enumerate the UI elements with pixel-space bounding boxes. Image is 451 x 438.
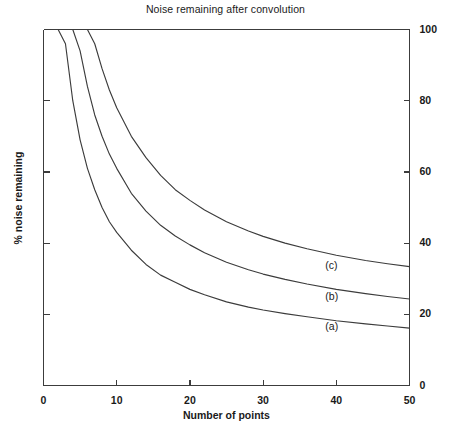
curve-c bbox=[51, 30, 410, 267]
y-tick-label: 100 bbox=[420, 23, 438, 35]
y-tick-label: 80 bbox=[420, 94, 432, 106]
x-tick-label: 30 bbox=[257, 394, 269, 406]
x-tick-label: 0 bbox=[41, 394, 47, 406]
y-tick-label: 0 bbox=[420, 379, 426, 391]
y-tick-label: 20 bbox=[420, 307, 432, 319]
y-tick-label: 60 bbox=[420, 165, 432, 177]
x-axis-label: Number of points bbox=[43, 409, 410, 421]
x-tick-label: 10 bbox=[111, 394, 123, 406]
plot-area bbox=[0, 0, 451, 438]
x-tick-label: 40 bbox=[330, 394, 342, 406]
x-tick-label: 20 bbox=[184, 394, 196, 406]
curve-label-a: (a) bbox=[325, 320, 338, 332]
curve-label-b: (b) bbox=[325, 290, 338, 302]
curve-label-c: (c) bbox=[325, 259, 337, 271]
x-tick-label: 50 bbox=[404, 394, 416, 406]
curve-a bbox=[51, 30, 410, 329]
y-axis-label: % noise remaining bbox=[12, 118, 24, 278]
y-tick-label: 40 bbox=[420, 236, 432, 248]
chart-figure: Noise remaining after convolution Number… bbox=[0, 0, 451, 438]
